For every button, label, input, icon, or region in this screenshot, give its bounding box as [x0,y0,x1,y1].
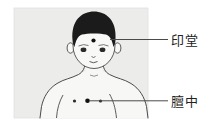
yintang-label: 印堂 [171,34,199,47]
acupoint-diagram: 印堂 膻中 [0,0,209,126]
left-nipple-dot [73,99,76,102]
left-eye [81,48,87,53]
danzhong-label: 膻中 [171,95,199,108]
yintang-point [91,38,95,42]
right-eye [100,48,106,53]
